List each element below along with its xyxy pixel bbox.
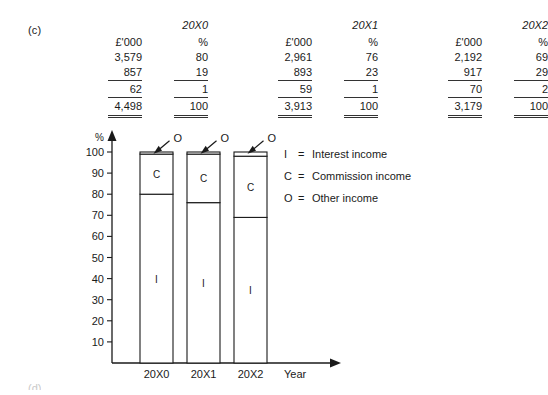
callout-leader-20X2 bbox=[251, 141, 264, 152]
total-cell: 100 bbox=[482, 97, 548, 118]
cell: 76 bbox=[312, 50, 378, 65]
unit-header-1: % bbox=[142, 35, 208, 50]
callout-leader-20X1 bbox=[204, 141, 217, 152]
chart-legend: I = Interest income C = Commission incom… bbox=[284, 143, 411, 209]
bar-group-20X1: IC bbox=[187, 152, 220, 363]
bar-segment-20X2-I bbox=[234, 217, 267, 363]
bar-segment-20X1-O bbox=[187, 152, 220, 154]
year-header-20x2: 20X2 bbox=[400, 18, 548, 35]
x-tick-label-20X2: 20X2 bbox=[238, 368, 264, 380]
segment-label-20X1-C: C bbox=[200, 173, 207, 184]
y-tick-label-20: 20 bbox=[92, 315, 104, 327]
bar-segment-20X2-C bbox=[234, 156, 267, 217]
legend-key-o: O bbox=[284, 187, 298, 209]
year-header-20x0: 20X0 bbox=[60, 18, 208, 35]
y-tick-label-10: 10 bbox=[92, 336, 104, 348]
legend-item-interest: I = Interest income bbox=[284, 143, 411, 165]
legend-equals: = bbox=[298, 143, 312, 165]
table-row: 62 1 59 1 70 2 bbox=[60, 80, 548, 97]
segment-label-20X1-I: I bbox=[202, 278, 205, 289]
unit-header-2: £'000 bbox=[230, 35, 312, 50]
y-axis-arrow-icon bbox=[108, 130, 117, 141]
legend-label-other: Other income bbox=[312, 187, 378, 209]
y-tick-label-30: 30 bbox=[92, 294, 104, 306]
bar-segment-20X0-C bbox=[140, 154, 173, 194]
callout-arrow-icon-20X0 bbox=[154, 146, 163, 154]
callout-label-20X2: O bbox=[268, 132, 277, 144]
cell: 3,579 bbox=[60, 50, 142, 65]
segment-label-20X0-I: I bbox=[155, 274, 158, 285]
y-tick-label-90: 90 bbox=[92, 167, 104, 179]
bar-group-20X0: IC bbox=[140, 152, 173, 363]
cell: 62 bbox=[60, 80, 142, 97]
y-tick-label-80: 80 bbox=[92, 188, 104, 200]
cell: 70 bbox=[400, 80, 482, 97]
legend-item-other: O = Other income bbox=[284, 187, 411, 209]
cell: 69 bbox=[482, 50, 548, 65]
table-row: 3,579 80 2,961 76 2,192 69 bbox=[60, 50, 548, 65]
callout-arrow-icon-20X1 bbox=[201, 146, 210, 154]
legend-item-commission: C = Commission income bbox=[284, 165, 411, 187]
bar-segment-20X2-O bbox=[234, 152, 267, 156]
cell: 23 bbox=[312, 65, 378, 80]
legend-equals: = bbox=[298, 187, 312, 209]
cell: 19 bbox=[142, 65, 208, 80]
cell: 2,192 bbox=[400, 50, 482, 65]
callout-label-20X0: O bbox=[174, 132, 183, 144]
cell: 59 bbox=[230, 80, 312, 97]
callout-arrow-icon-20X2 bbox=[248, 146, 257, 154]
callout-leader-20X0 bbox=[157, 141, 170, 152]
y-tick-label-50: 50 bbox=[92, 252, 104, 264]
x-tick-label-20X0: 20X0 bbox=[144, 368, 170, 380]
cell: 893 bbox=[230, 65, 312, 80]
bar-segment-20X0-I bbox=[140, 194, 173, 363]
total-cell: 100 bbox=[142, 97, 208, 118]
table-year-header-row: 20X0 20X1 20X2 bbox=[60, 18, 548, 35]
bar-group-20X2: IC bbox=[234, 152, 267, 363]
total-cell: 3,179 bbox=[400, 97, 482, 118]
x-axis-arrow-icon bbox=[330, 359, 341, 368]
y-axis-unit-label: % bbox=[95, 132, 104, 143]
legend-key-i: I bbox=[284, 143, 298, 165]
total-cell: 100 bbox=[312, 97, 378, 118]
segment-label-20X2-C: C bbox=[247, 182, 254, 193]
cell: 857 bbox=[60, 65, 142, 80]
legend-label-interest: Interest income bbox=[312, 143, 387, 165]
bar-segment-20X1-I bbox=[187, 203, 220, 363]
table: 20X0 20X1 20X2 £'000 % £'000 % £'000 % bbox=[60, 18, 548, 118]
next-part-label-cutoff: (d) bbox=[28, 382, 41, 390]
cell: 80 bbox=[142, 50, 208, 65]
cell: 1 bbox=[142, 80, 208, 97]
y-tick-label-100: 100 bbox=[86, 146, 104, 158]
callout-label-20X1: O bbox=[221, 132, 230, 144]
income-breakdown-table: 20X0 20X1 20X2 £'000 % £'000 % £'000 % bbox=[60, 18, 505, 118]
cell: 1 bbox=[312, 80, 378, 97]
table-total-row: 4,498 100 3,913 100 3,179 100 bbox=[60, 97, 548, 118]
part-label: (c) bbox=[28, 24, 41, 36]
unit-header-5: % bbox=[482, 35, 548, 50]
y-tick-label-40: 40 bbox=[92, 273, 104, 285]
legend-label-commission: Commission income bbox=[312, 165, 411, 187]
legend-equals: = bbox=[298, 165, 312, 187]
y-tick-label-60: 60 bbox=[92, 230, 104, 242]
x-axis-title: Year bbox=[284, 368, 307, 380]
segment-label-20X2-I: I bbox=[249, 285, 252, 296]
cell: 917 bbox=[400, 65, 482, 80]
unit-header-3: % bbox=[312, 35, 378, 50]
cell: 2,961 bbox=[230, 50, 312, 65]
segment-label-20X0-C: C bbox=[153, 169, 160, 180]
x-tick-label-20X1: 20X1 bbox=[191, 368, 217, 380]
unit-header-4: £'000 bbox=[400, 35, 482, 50]
year-header-20x1: 20X1 bbox=[230, 18, 378, 35]
table-row: 857 19 893 23 917 29 bbox=[60, 65, 548, 80]
legend-key-c: C bbox=[284, 165, 298, 187]
bar-segment-20X0-O bbox=[140, 152, 173, 154]
cell: 2 bbox=[482, 80, 548, 97]
cell: 29 bbox=[482, 65, 548, 80]
total-cell: 3,913 bbox=[230, 97, 312, 118]
unit-header-0: £'000 bbox=[60, 35, 142, 50]
bar-segment-20X1-C bbox=[187, 154, 220, 203]
y-tick-label-70: 70 bbox=[92, 209, 104, 221]
table-unit-header-row: £'000 % £'000 % £'000 % bbox=[60, 35, 548, 50]
